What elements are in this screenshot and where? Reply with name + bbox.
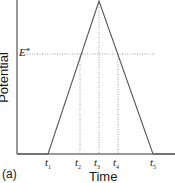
potential-waveform — [17, 1, 175, 154]
x-axis-label: Time — [89, 169, 117, 183]
e-star-label: E* — [19, 46, 30, 58]
tick-t5-sub: 5 — [153, 164, 156, 170]
tick-t5: t5 — [150, 156, 156, 170]
tick-t2: t2 — [75, 156, 81, 170]
tick-t1-sub: 1 — [48, 164, 51, 170]
y-axis-label: Potential — [0, 52, 11, 103]
panel-label: (a) — [2, 167, 17, 181]
potential-time-plot — [0, 0, 175, 183]
e-star-superscript: * — [26, 46, 31, 56]
tick-t1: t1 — [45, 156, 51, 170]
e-star-text: E — [19, 46, 26, 58]
tick-t2-sub: 2 — [78, 164, 81, 170]
